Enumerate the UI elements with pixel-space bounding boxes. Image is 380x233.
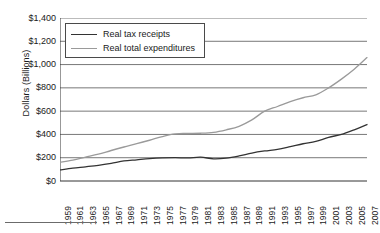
chart-legend: Real tax receipts Real total expenditure… <box>65 23 205 58</box>
legend-item-label: Real total expenditures <box>103 44 195 53</box>
legend-swatch-line <box>71 48 97 49</box>
x-axis-tick-label: 1975 <box>166 206 175 225</box>
x-axis-tick-label: 1977 <box>179 206 188 225</box>
chart-figure: Dollars (Billions) $1,400$1,200$1,000$80… <box>0 0 380 233</box>
footer-rule <box>5 222 97 223</box>
legend-swatch-line <box>71 34 97 35</box>
x-axis-tick-label: 1981 <box>204 206 213 225</box>
series-line <box>60 58 367 163</box>
x-axis-tick-label: 1991 <box>268 206 277 225</box>
x-axis-tick-label: 1989 <box>255 206 264 225</box>
x-axis-tick-label: 1993 <box>281 206 290 225</box>
x-axis-tick-label: 1971 <box>140 206 149 225</box>
x-axis-tick-label: 1983 <box>217 206 226 225</box>
legend-item-real-total-expenditures: Real total expenditures <box>71 41 199 55</box>
y-axis-tick-label: $0 <box>10 177 56 186</box>
x-axis-tick-label: 1967 <box>115 206 124 225</box>
x-axis-tick-label: 2007 <box>371 206 380 225</box>
x-axis-tick-labels: 1959196119631965196719691971197319751977… <box>60 183 367 227</box>
y-axis-tick-label: $1,400 <box>10 14 56 23</box>
x-axis-tick-label: 1999 <box>319 206 328 225</box>
y-axis-tick-label: $400 <box>10 130 56 139</box>
x-axis-tick-label: 1973 <box>153 206 162 225</box>
x-axis-tick-label: 1995 <box>294 206 303 225</box>
y-axis-tick-label: $600 <box>10 107 56 116</box>
x-axis-tick-label: 1965 <box>102 206 111 225</box>
legend-item-real-tax-receipts: Real tax receipts <box>71 27 199 41</box>
x-axis-tick-label: 1987 <box>243 206 252 225</box>
y-axis-tick-label: $800 <box>10 83 56 92</box>
x-axis-tick-label: 1985 <box>230 206 239 225</box>
x-axis-tick-label: 1997 <box>307 206 316 225</box>
series-line <box>60 125 367 170</box>
x-axis-tick-label: 2005 <box>358 206 367 225</box>
x-axis-tick-label: 1979 <box>191 206 200 225</box>
y-axis-tick-label: $1,200 <box>10 37 56 46</box>
x-axis-tick-label: 2003 <box>345 206 354 225</box>
y-axis-tick-label: $200 <box>10 153 56 162</box>
y-axis-tick-labels: $1,400$1,200$1,000$800$600$400$200$0 <box>8 0 56 233</box>
y-axis-tick-label: $1,000 <box>10 60 56 69</box>
x-axis-tick-label: 2001 <box>332 206 341 225</box>
legend-item-label: Real tax receipts <box>103 30 170 39</box>
x-axis-tick-label: 1969 <box>127 206 136 225</box>
